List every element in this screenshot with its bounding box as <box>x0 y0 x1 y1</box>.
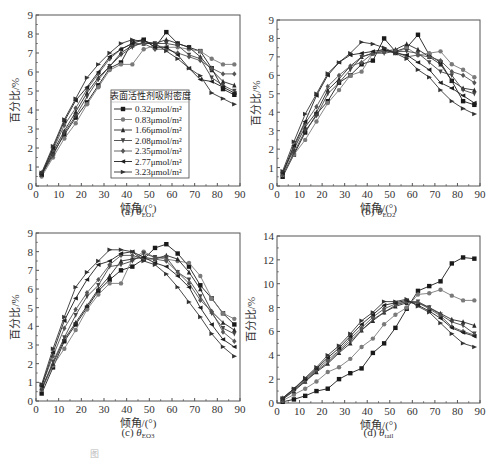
data-point-marker <box>164 242 168 246</box>
data-point-marker <box>337 88 341 92</box>
series-line <box>280 299 476 402</box>
x-tick-label: 90 <box>235 403 247 415</box>
y-tick-label: 0 <box>28 395 34 407</box>
y-tick-label: 0 <box>269 397 275 409</box>
data-point-marker <box>121 107 125 111</box>
data-point-marker <box>461 341 466 345</box>
legend-item-label: 1.66μmol/m² <box>135 125 182 135</box>
data-point-marker <box>119 41 124 45</box>
y-tick-label: 6 <box>269 325 275 337</box>
series-line <box>280 287 476 402</box>
x-tick-label: 50 <box>384 405 396 417</box>
data-point-marker <box>292 397 296 401</box>
x-tick-label: 70 <box>189 403 201 415</box>
chart-panel-b: 01020304050607080900123456789倾角/(°)百分比/%… <box>250 14 486 219</box>
data-point-marker <box>232 317 236 321</box>
x-tick-label: 30 <box>339 188 351 200</box>
data-point-marker <box>359 69 363 73</box>
data-point-marker <box>472 298 476 302</box>
y-tick-label: 12 <box>263 254 274 266</box>
data-point-marker <box>303 138 307 142</box>
figure-caption: 图 <box>90 447 99 460</box>
x-tick-label: 70 <box>189 188 201 200</box>
data-point-marker <box>232 62 236 66</box>
x-tick-label: 20 <box>317 188 329 200</box>
data-point-marker <box>449 86 454 90</box>
data-point-marker <box>382 36 386 40</box>
legend-title: 表面活性剂吸附密度 <box>110 90 191 101</box>
y-tick-label: 1 <box>269 162 275 174</box>
data-point-marker <box>73 313 77 318</box>
x-tick-label: 30 <box>99 188 111 200</box>
y-tick-label: 7 <box>28 47 34 59</box>
y-tick-label: 4 <box>28 320 34 332</box>
data-point-marker <box>232 327 236 332</box>
data-point-marker <box>461 298 465 302</box>
data-point-marker <box>371 42 376 46</box>
chart-panel-d: 010203040506070809002468101214倾角/(°)百分比/… <box>245 230 486 440</box>
data-point-marker <box>303 386 307 390</box>
data-point-marker <box>371 58 375 62</box>
data-point-marker <box>164 264 169 268</box>
series-line <box>39 253 236 390</box>
data-point-marker <box>404 305 408 309</box>
data-point-marker <box>371 336 375 340</box>
data-point-marker <box>221 71 225 76</box>
data-point-marker <box>130 62 134 66</box>
data-point-marker <box>337 377 341 381</box>
y-tick-label: 1 <box>28 376 34 388</box>
y-tick-label: 0 <box>28 180 34 192</box>
y-tick-label: 2 <box>28 142 34 154</box>
x-tick-label: 80 <box>452 405 464 417</box>
y-tick-label: 4 <box>269 349 275 361</box>
data-point-marker <box>107 281 111 285</box>
data-point-marker <box>461 99 465 103</box>
data-point-marker <box>85 102 89 106</box>
data-point-marker <box>326 370 330 374</box>
y-tick-label: 8 <box>28 28 34 40</box>
series-line <box>280 41 476 175</box>
data-point-marker <box>62 347 66 351</box>
data-point-marker <box>326 386 330 390</box>
data-point-marker <box>85 76 90 80</box>
y-tick-label: 14 <box>263 230 275 242</box>
data-point-marker <box>393 326 397 330</box>
x-tick-label: 0 <box>274 188 280 200</box>
data-point-marker <box>359 366 363 370</box>
y-tick-label: 7 <box>269 51 275 63</box>
data-point-marker <box>198 274 202 278</box>
data-point-marker <box>209 296 213 300</box>
x-tick-label: 60 <box>407 188 419 200</box>
data-point-marker <box>348 73 352 77</box>
data-point-marker <box>314 389 318 393</box>
y-tick-label: 4 <box>28 104 34 116</box>
plot-frame <box>277 20 480 186</box>
data-point-marker <box>472 112 477 116</box>
data-point-marker <box>461 106 466 110</box>
data-point-marker <box>73 285 78 289</box>
data-point-marker <box>198 315 203 319</box>
x-tick-label: 10 <box>53 188 65 200</box>
x-tick-label: 30 <box>99 403 111 415</box>
data-point-marker <box>427 291 431 295</box>
x-tick-label: 70 <box>429 405 441 417</box>
y-tick-label: 3 <box>28 339 34 351</box>
legend-item-label: 2.08μmol/m² <box>135 136 182 146</box>
data-point-marker <box>450 293 454 297</box>
x-tick-label: 20 <box>76 188 88 200</box>
data-point-marker <box>427 284 431 288</box>
data-point-marker <box>472 80 476 85</box>
data-point-marker <box>438 279 442 283</box>
data-point-marker <box>198 49 202 53</box>
y-tick-label: 8 <box>269 32 275 44</box>
data-point-marker <box>416 292 420 296</box>
data-point-marker <box>164 272 169 276</box>
data-point-marker <box>209 79 214 83</box>
x-tick-label: 20 <box>317 405 329 417</box>
y-axis-label: 百分比/% <box>9 78 21 123</box>
y-axis-label: 百分比/% <box>245 297 257 342</box>
data-point-marker <box>121 117 125 121</box>
data-point-marker <box>221 62 225 66</box>
y-tick-label: 3 <box>269 125 275 137</box>
data-point-marker <box>164 30 168 34</box>
